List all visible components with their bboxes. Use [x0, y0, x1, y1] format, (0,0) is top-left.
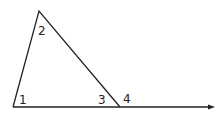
angle-label-1: 1 — [19, 94, 27, 106]
angle-label-4: 4 — [123, 93, 131, 105]
triangle-diagram — [0, 0, 215, 114]
arrowhead-icon — [208, 105, 215, 110]
angle-label-2: 2 — [38, 25, 46, 37]
angle-label-3: 3 — [98, 94, 106, 106]
